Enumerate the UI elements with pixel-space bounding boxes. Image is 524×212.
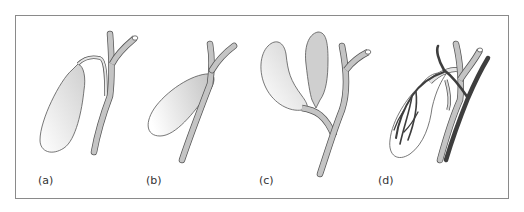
panel-a-drawing (40, 34, 138, 152)
panel-b-drawing (148, 44, 234, 160)
panel-label-c: (c) (259, 174, 274, 187)
panel-label-d: (d) (378, 174, 394, 187)
panel-label-b: (b) (146, 174, 162, 187)
panel-d-drawing (390, 44, 488, 160)
panel-label-a: (a) (38, 174, 53, 187)
panel-c-drawing (261, 32, 371, 174)
